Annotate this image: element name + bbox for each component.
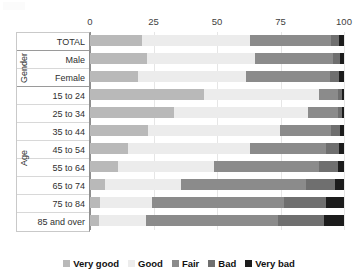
legend-item[interactable]: Very bad [245, 258, 295, 269]
bar-segment-very-good [90, 107, 174, 118]
bar-segment-very-good [90, 89, 204, 100]
bar-segment-good [142, 35, 250, 46]
x-axis-tick-50: 50 [212, 16, 223, 28]
stacked-bar [90, 161, 344, 172]
legend-label: Very good [73, 258, 119, 269]
bar-row [90, 176, 344, 194]
bar-segment-very-bad [326, 197, 344, 208]
corner-artifact [3, 2, 25, 10]
group-label-gender: Gender [17, 50, 31, 86]
bar-segment-bad [331, 35, 339, 46]
stacked-bar [90, 35, 344, 46]
bar-segment-very-good [90, 179, 105, 190]
bar-segment-very-good [90, 215, 99, 226]
bar-segment-fair [146, 215, 278, 226]
legend-swatch-icon [172, 260, 179, 267]
legend-swatch-icon [128, 260, 135, 267]
bar-segment-good [118, 161, 215, 172]
bar-segment-fair [255, 53, 332, 64]
bar-segment-bad [331, 125, 340, 136]
x-axis-tick-25: 25 [148, 16, 159, 28]
bar-segment-bad [333, 53, 341, 64]
bar-segment-very-bad [339, 35, 344, 46]
bar-segment-bad [278, 215, 324, 226]
bar-segment-good [138, 71, 246, 82]
category-label: TOTAL [17, 33, 89, 51]
bar-segment-very-bad [340, 125, 344, 136]
bar-segment-very-good [90, 161, 118, 172]
bar-segment-fair [319, 89, 338, 100]
bar-row [90, 68, 344, 86]
bar-row [90, 158, 344, 176]
legend-item[interactable]: Good [128, 258, 163, 269]
bar-segment-fair [308, 107, 337, 118]
bar-segment-fair [152, 197, 284, 208]
stacked-bar [90, 71, 344, 82]
bar-segment-fair [250, 35, 331, 46]
bar-segment-good [174, 107, 309, 118]
stacked-bar [90, 179, 344, 190]
bar-segment-good [105, 179, 181, 190]
bar-row [90, 32, 344, 50]
legend-label: Very bad [255, 258, 295, 269]
bar-segment-fair [181, 179, 305, 190]
bar-segment-good [99, 215, 146, 226]
group-label-text: Gender [19, 53, 29, 83]
bar-segment-fair [280, 125, 331, 136]
bar-segment-very-bad [339, 71, 344, 82]
stacked-bar [90, 215, 344, 226]
bar-segment-very-good [90, 125, 148, 136]
bar-segment-very-bad [342, 89, 344, 100]
legend-swatch-icon [245, 260, 252, 267]
bar-segment-fair [246, 71, 330, 82]
bar-segment-bad [284, 197, 326, 208]
bar-segment-very-good [90, 71, 138, 82]
bar-segment-very-good [90, 53, 147, 64]
stacked-bar [90, 125, 344, 136]
stacked-bar [90, 107, 344, 118]
x-axis-tick-100: 100 [336, 16, 352, 28]
bar-row [90, 50, 344, 68]
bar-segment-good [147, 53, 255, 64]
legend-item[interactable]: Fair [172, 258, 199, 269]
bar-segment-bad [330, 71, 339, 82]
bar-segment-good [100, 197, 152, 208]
bar-segment-good [204, 89, 318, 100]
bar-row [90, 104, 344, 122]
chart-legend: Very goodGoodFairBadVery bad [0, 255, 358, 271]
legend-item[interactable]: Bad [208, 258, 236, 269]
x-axis-tick-75: 75 [275, 16, 286, 28]
bar-segment-very-bad [340, 53, 344, 64]
bar-segment-very-bad [324, 215, 344, 226]
bar-segment-very-bad [342, 107, 344, 118]
x-axis: 0255075100 [0, 16, 358, 30]
bar-segment-very-bad [338, 161, 344, 172]
bar-segment-very-good [90, 143, 128, 154]
bar-segment-bad [319, 161, 338, 172]
bar-segment-very-good [90, 35, 142, 46]
gridline-100 [344, 32, 345, 230]
bar-segment-good [128, 143, 250, 154]
stacked-bar-chart: 0255075100 TOTALMaleFemale15 to 2425 to … [0, 0, 358, 279]
legend-swatch-icon [208, 260, 215, 267]
bar-row [90, 86, 344, 104]
bar-segment-fair [214, 161, 318, 172]
legend-label: Bad [218, 258, 236, 269]
stacked-bar [90, 53, 344, 64]
stacked-bar [90, 89, 344, 100]
bar-segment-very-bad [339, 143, 344, 154]
bar-segment-bad [326, 143, 339, 154]
bar-segment-bad [306, 179, 335, 190]
plot-area [90, 32, 344, 230]
x-axis-tick-0: 0 [87, 16, 92, 28]
bar-row [90, 122, 344, 140]
legend-swatch-icon [63, 260, 70, 267]
group-label-text: Age [19, 150, 29, 166]
group-label-age: Age [17, 86, 31, 230]
stacked-bar [90, 197, 344, 208]
bar-row [90, 212, 344, 230]
legend-label: Fair [182, 258, 199, 269]
bar-segment-good [148, 125, 280, 136]
bar-row [90, 194, 344, 212]
legend-item[interactable]: Very good [63, 258, 119, 269]
